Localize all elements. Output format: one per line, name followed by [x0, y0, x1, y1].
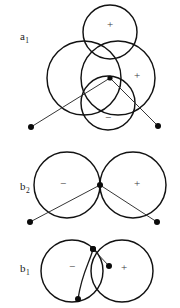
panel-b2-left-lobe [34, 152, 100, 218]
panel-label-b2: b2 [20, 180, 30, 195]
panel-label-a1: a1 [20, 30, 29, 45]
panel-b2: −+b2 [20, 152, 166, 225]
panel-a1-right-lobe-sign: + [134, 69, 140, 81]
panel-b2-left-lobe-sign: − [60, 177, 66, 189]
figure-root: ++−a1−+b2−+b1 [0, 0, 180, 308]
panel-a1: ++−a1 [20, 5, 161, 130]
panel-a1-atom-right [155, 123, 161, 129]
panel-label-a1-subscript: 1 [25, 36, 29, 45]
panel-b1-atom-lower [75, 296, 81, 302]
panel-b1-atom-upper [90, 246, 96, 252]
orbital-diagram: ++−a1−+b2−+b1 [0, 0, 180, 308]
panel-label-b1-subscript: 1 [26, 268, 30, 277]
panel-label-a1-base: a [20, 30, 25, 42]
panel-b1-atom-mid [106, 263, 112, 269]
panels-group: ++−a1−+b2−+b1 [20, 5, 166, 302]
panel-b2-right-lobe-sign: + [134, 177, 140, 189]
panel-a1-bond-left [31, 78, 110, 127]
panel-a1-atom-left [28, 124, 34, 130]
panel-b2-center-node [97, 182, 103, 188]
panel-a1-bottom-lobe-sign: − [105, 111, 111, 123]
panel-a1-bond-right [110, 78, 158, 126]
panel-b2-atom-right [154, 219, 160, 225]
panel-b2-bond-right [100, 185, 157, 222]
panel-b1: −+b1 [20, 240, 153, 302]
panel-b2-atom-left [27, 219, 33, 225]
panel-label-b2-subscript: 2 [26, 186, 30, 195]
panel-a1-top-lobe-sign: + [107, 18, 113, 30]
panel-a1-center-node [107, 75, 112, 80]
panel-b1-bond-short [93, 249, 109, 266]
panel-label-b1: b1 [20, 262, 30, 277]
panel-b1-right-lobe-sign: + [121, 261, 127, 273]
panel-b1-left-lobe-sign: − [69, 260, 75, 272]
